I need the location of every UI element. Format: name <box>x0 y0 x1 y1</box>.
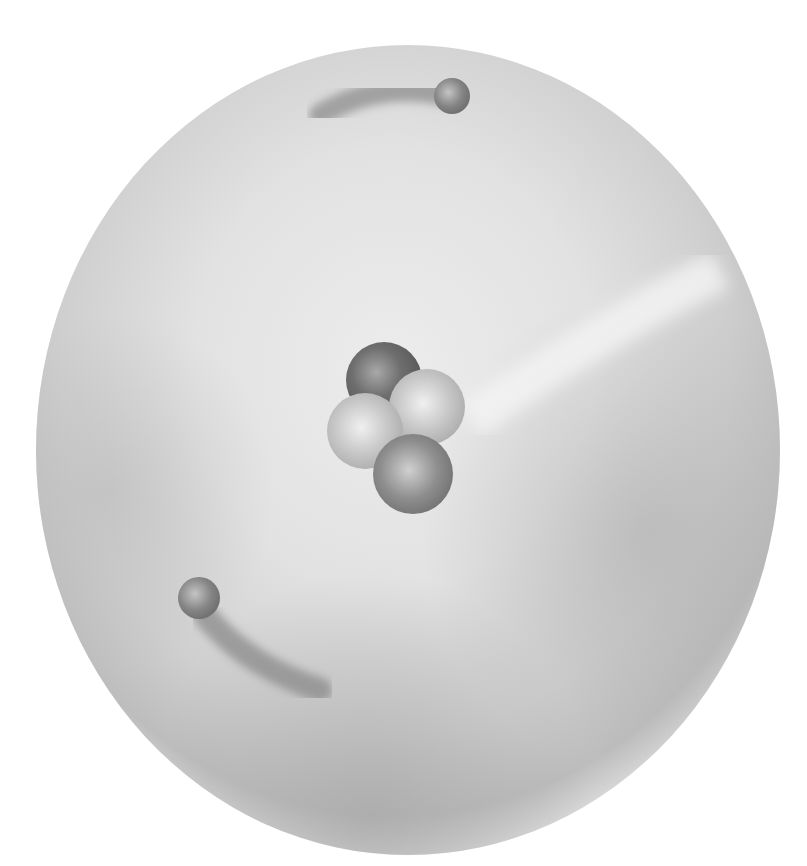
atom-illustration <box>0 0 807 866</box>
atom-svg <box>0 0 807 866</box>
nucleon-4 <box>373 434 453 514</box>
